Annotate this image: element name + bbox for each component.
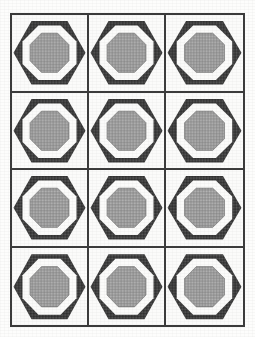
gray-octagon-center: [107, 188, 146, 227]
block-shape-stack: [166, 170, 243, 246]
quilt-block: [166, 15, 243, 93]
block-shape-stack: [89, 170, 164, 246]
block-artwork: [89, 170, 164, 246]
quilt-block: [89, 170, 166, 248]
quilt-block: [12, 93, 89, 171]
gray-octagon-center: [184, 33, 224, 72]
quilt-block: [89, 15, 166, 93]
block-shape-stack: [12, 248, 87, 326]
quilt-block: [89, 93, 166, 171]
block-artwork: [12, 93, 87, 169]
block-shape-stack: [12, 15, 87, 91]
gray-octagon-center: [107, 33, 146, 72]
quilt-block: [89, 248, 166, 326]
block-shape-stack: [89, 15, 164, 91]
block-shape-stack: [89, 93, 164, 169]
quilt-block: [166, 170, 243, 248]
block-shape-stack: [166, 93, 243, 169]
gray-octagon-center: [107, 111, 146, 150]
quilt-grid: [12, 15, 243, 325]
block-artwork: [89, 248, 164, 326]
gray-octagon-center: [107, 266, 146, 306]
gray-octagon-center: [30, 33, 69, 72]
block-artwork: [12, 170, 87, 246]
gray-octagon-center: [30, 111, 69, 150]
quilt-block: [12, 170, 89, 248]
quilt-block: [166, 248, 243, 326]
caption-zone: [0, 327, 255, 337]
quilt-pattern-page: [0, 0, 255, 337]
block-artwork: [166, 248, 243, 326]
block-shape-stack: [166, 248, 243, 326]
gray-octagon-center: [184, 266, 224, 306]
quilt-frame: [10, 13, 245, 327]
block-shape-stack: [89, 248, 164, 326]
gray-octagon-center: [30, 266, 69, 306]
quilt-block: [166, 93, 243, 171]
block-artwork: [166, 15, 243, 91]
gray-octagon-center: [184, 188, 224, 227]
gray-octagon-center: [30, 188, 69, 227]
block-shape-stack: [12, 93, 87, 169]
block-artwork: [89, 93, 164, 169]
quilt-block: [12, 15, 89, 93]
block-artwork: [12, 15, 87, 91]
gray-octagon-center: [184, 111, 224, 150]
block-shape-stack: [12, 170, 87, 246]
block-shape-stack: [166, 15, 243, 91]
block-artwork: [12, 248, 87, 326]
block-artwork: [89, 15, 164, 91]
block-artwork: [166, 170, 243, 246]
quilt-block: [12, 248, 89, 326]
block-artwork: [166, 93, 243, 169]
